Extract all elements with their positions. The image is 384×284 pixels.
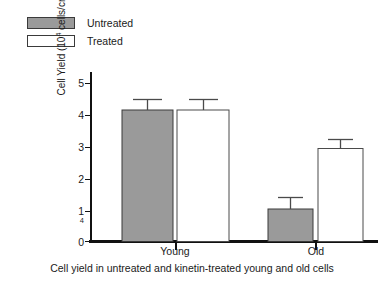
x-axis-ticks (176, 242, 316, 250)
bar-young-untreated (122, 110, 173, 242)
errorbar-young-treated (189, 99, 218, 110)
y-tick-label-2: 2 (70, 174, 84, 184)
y-tick-label-0: 0 (70, 237, 84, 247)
y-axis-label-tail: cells/cm (56, 0, 67, 33)
y-axis-label: Cell Yield (104 cells/cm2) (52, 0, 66, 106)
y-tick-label-1: 1 (70, 206, 84, 216)
y-tick-label-4: 4 (70, 110, 84, 120)
bar-old-untreated (268, 209, 313, 242)
y-axis-tick-labels: 5 4 3 2 1 0 (70, 0, 84, 284)
errorbar-young-untreated (133, 99, 162, 110)
y-tick-label-3: 3 (70, 142, 84, 152)
x-tick-label-young: Young (160, 245, 189, 257)
figure-caption: Cell yield in untreated and kinetin-trea… (0, 262, 384, 275)
bar-old-treated (318, 149, 363, 242)
y-axis-ticks (85, 84, 90, 242)
stray-superscript-artifact: 4 (70, 217, 84, 225)
y-axis-label-text: Cell Yield (10 (56, 37, 67, 96)
x-tick-label-old: Old (308, 245, 324, 257)
errorbar-old-untreated (278, 197, 303, 209)
y-tick-label-5: 5 (70, 78, 84, 88)
y-axis-label-sup-4: 4 (55, 33, 62, 37)
errorbar-old-treated (328, 139, 353, 149)
bar-young-treated (177, 110, 229, 242)
